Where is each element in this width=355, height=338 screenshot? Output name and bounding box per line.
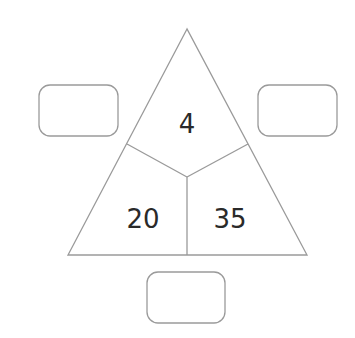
top-value: 4 <box>179 109 196 139</box>
number-triangle-diagram: 4 20 35 <box>0 0 355 338</box>
answer-box-bottom[interactable] <box>147 272 225 323</box>
answer-box-left[interactable] <box>39 85 118 136</box>
answer-box-right[interactable] <box>258 85 337 136</box>
bottom-right-value: 35 <box>213 204 246 234</box>
triangle <box>68 29 307 255</box>
bottom-left-value: 20 <box>126 204 159 234</box>
